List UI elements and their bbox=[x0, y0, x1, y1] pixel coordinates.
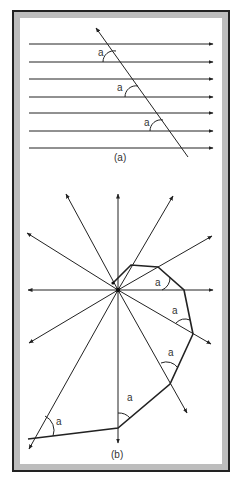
center-point bbox=[116, 288, 120, 292]
radial-arrow bbox=[118, 196, 173, 290]
transversal-arrow bbox=[96, 28, 188, 157]
angle-arc bbox=[125, 86, 138, 97]
angle-label: a bbox=[172, 305, 178, 316]
angle-arc bbox=[162, 277, 170, 290]
caption-a: (a) bbox=[114, 152, 126, 163]
caption-b: (b) bbox=[111, 449, 123, 460]
geometry-diagram: a a a (a) a a a a a (b) bbox=[0, 0, 238, 478]
panel-b bbox=[27, 194, 213, 449]
angle-label: a bbox=[117, 82, 123, 93]
angle-label: a bbox=[98, 47, 104, 58]
angle-label: a bbox=[56, 416, 62, 427]
angle-label: a bbox=[155, 277, 161, 288]
radial-arrow bbox=[118, 236, 212, 290]
radial-arrow bbox=[66, 194, 118, 290]
angle-label: a bbox=[168, 347, 174, 358]
angle-arc bbox=[150, 120, 163, 131]
angle-arc bbox=[161, 362, 178, 368]
angle-label: a bbox=[127, 392, 133, 403]
radial-arrow bbox=[29, 290, 118, 449]
radial-arrow bbox=[29, 290, 118, 343]
angle-arc bbox=[176, 319, 190, 323]
angle-label: a bbox=[144, 117, 150, 128]
angle-arc bbox=[118, 413, 130, 418]
vertex-point bbox=[111, 281, 114, 284]
radial-arrow bbox=[27, 233, 118, 290]
radial-arrow bbox=[118, 290, 211, 344]
